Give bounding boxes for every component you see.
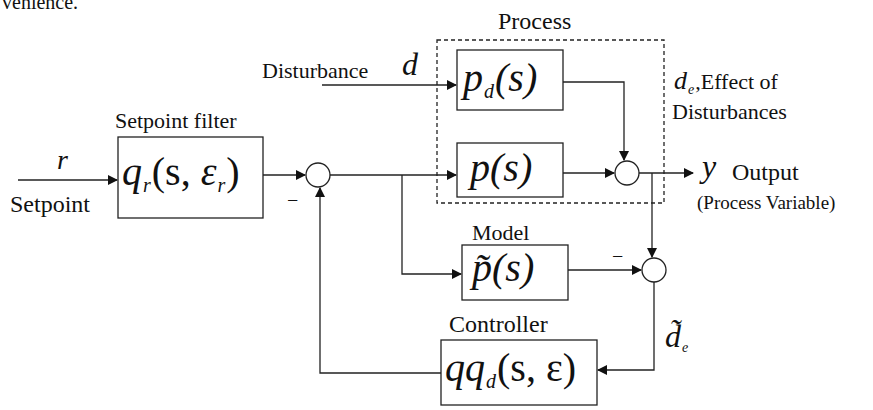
plant-transfer-function: p(s) <box>470 148 532 188</box>
model-minus-sign: − <box>612 246 623 266</box>
output-label: Output <box>732 160 799 184</box>
estimated-disturbance-label: d̃e <box>665 320 689 352</box>
sum-junction-model-error <box>642 258 666 282</box>
model-transfer-function: p̃(s) <box>472 248 534 288</box>
disturbance-effect-label: de,Effect of <box>674 68 778 94</box>
disturbance-label: Disturbance <box>262 60 368 82</box>
disturbance-effect-label-line2: Disturbances <box>672 101 787 123</box>
header-fragment: venience. <box>2 0 78 12</box>
feedback-minus-sign: − <box>287 190 298 210</box>
setpoint-symbol: r <box>57 146 68 174</box>
disturbance-model-transfer-function: pd(s) <box>463 58 537 98</box>
setpoint-filter-title: Setpoint filter <box>115 110 237 132</box>
setpoint-label: Setpoint <box>10 192 90 216</box>
controller-title: Controller <box>449 312 548 336</box>
sum-junction-error <box>306 163 330 187</box>
output-symbol: y <box>702 150 716 182</box>
setpoint-filter-transfer-function: qr(s, εr) <box>122 152 240 192</box>
sum-junction-output <box>615 161 639 185</box>
disturbance-symbol: d <box>402 48 418 80</box>
output-sublabel: (Process Variable) <box>697 193 835 212</box>
controller-transfer-function: qqd(s, ε) <box>445 348 576 388</box>
process-title: Process <box>498 9 571 33</box>
model-title: Model <box>472 222 529 244</box>
